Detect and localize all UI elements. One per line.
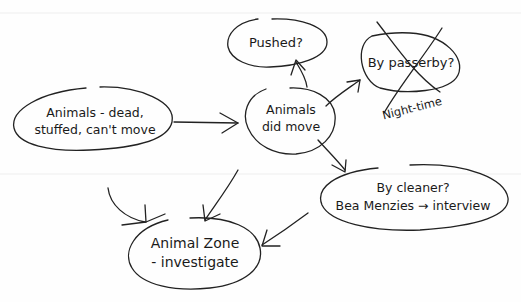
node-by-passerby: By passerby? Night-time — [361, 22, 459, 122]
node-by-passerby-text: By passerby? — [368, 55, 455, 70]
node-animals-dead-line2: stuffed, can't move — [34, 122, 156, 137]
node-by-cleaner-line2: Bea Menzies → interview — [336, 198, 491, 213]
edge-dead-to-moved — [174, 122, 238, 123]
node-animals-moved-line1: Animals — [266, 102, 316, 117]
edge-moved-to-passerby — [326, 80, 360, 106]
node-animals-dead-line1: Animals - dead, — [46, 105, 143, 120]
arrowhead-icon — [145, 205, 146, 222]
edge-dead-to-zone — [108, 188, 145, 222]
node-animal-zone-line2: - investigate — [151, 254, 238, 270]
node-pushed: Pushed? — [228, 19, 327, 67]
edge-cleaner-to-zone — [262, 213, 308, 245]
node-by-cleaner: By cleaner? Bea Menzies → interview — [321, 165, 508, 231]
node-animals-dead: Animals - dead, stuffed, can't move — [14, 87, 173, 150]
diagram-svg: Animals - dead, stuffed, can't move Push… — [0, 0, 521, 302]
node-pushed-text: Pushed? — [249, 35, 303, 50]
edges — [108, 60, 360, 246]
arrowhead-icon — [332, 160, 346, 172]
edge-moved-to-cleaner — [318, 140, 345, 170]
node-animal-zone-line1: Animal Zone — [151, 235, 240, 251]
node-animals-moved-line2: did move — [262, 119, 321, 134]
edge-moved-to-zone — [205, 170, 238, 220]
node-night-time-note: Night-time — [381, 94, 444, 122]
mind-map-diagram: Animals - dead, stuffed, can't move Push… — [0, 0, 521, 302]
node-animal-zone: Animal Zone - investigate — [129, 218, 261, 289]
node-by-cleaner-line1: By cleaner? — [376, 180, 449, 195]
